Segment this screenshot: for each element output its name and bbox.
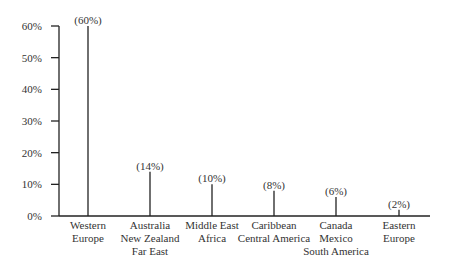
x-category-label: Far East	[132, 245, 168, 257]
x-category-label: Mexico	[319, 232, 353, 244]
x-category-label: Australia	[130, 219, 170, 231]
x-category-label: Central America	[238, 232, 311, 244]
x-category-label: Eastern	[383, 219, 416, 231]
y-tick-label: 40%	[22, 83, 42, 95]
bar-value-label: (10%)	[198, 172, 226, 185]
bar-value-label: (8%)	[263, 179, 285, 192]
x-category-label: Middle East	[185, 219, 238, 231]
x-category-label: Africa	[198, 232, 226, 244]
y-tick-label: 0%	[27, 210, 42, 222]
bar-value-label: (6%)	[325, 185, 347, 198]
x-category-label: Caribbean	[251, 219, 297, 231]
bar-value-label: (2%)	[388, 198, 410, 211]
axes: 0%10%20%30%40%50%60%	[22, 20, 430, 222]
x-category-label: South America	[303, 245, 369, 257]
y-tick-label: 50%	[22, 52, 42, 64]
x-category-label: New Zealand	[121, 232, 180, 244]
bar-value-label: (14%)	[136, 160, 164, 173]
y-tick-label: 10%	[22, 178, 42, 190]
x-category-label: Western	[70, 219, 106, 231]
x-category-label: Canada	[320, 219, 353, 231]
x-category-label: Europe	[383, 232, 415, 244]
bars: (60%)WesternEurope(14%)AustraliaNew Zeal…	[70, 14, 416, 257]
bar-chart: 0%10%20%30%40%50%60% (60%)WesternEurope(…	[0, 0, 456, 271]
y-tick-label: 30%	[22, 115, 42, 127]
y-tick-label: 60%	[22, 20, 42, 32]
bar-value-label: (60%)	[74, 14, 102, 27]
x-category-label: Europe	[72, 232, 104, 244]
y-tick-label: 20%	[22, 147, 42, 159]
